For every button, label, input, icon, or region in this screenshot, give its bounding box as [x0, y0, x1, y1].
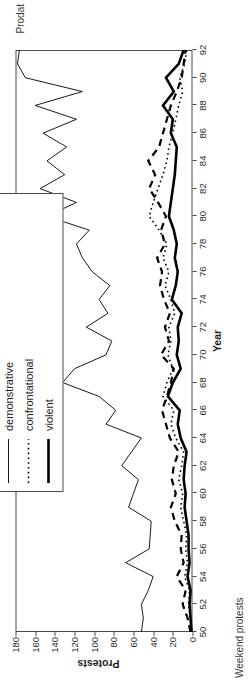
legend-swatch-thin-solid-icon [2, 439, 14, 483]
x-tick-label-68: 68 [196, 372, 207, 394]
y-tick-mark [15, 632, 16, 636]
series-line-violent [163, 50, 192, 632]
x-tick-mark [192, 382, 196, 383]
y-tick-mark [113, 632, 114, 636]
caption-prodat: Prodat [14, 4, 25, 33]
chart-figure: 5052545658606264666870727476788082848688… [0, 0, 251, 680]
y-tick-mark [192, 632, 193, 636]
legend-item-violent[interactable]: violent [40, 202, 55, 483]
x-tick-label-78: 78 [196, 233, 207, 255]
x-tick-label-60: 60 [196, 482, 207, 504]
chart-page: 5052545658606264666870727476788082848688… [0, 0, 251, 680]
x-tick-label-70: 70 [196, 344, 207, 366]
rotated-figure-wrapper: 5052545658606264666870727476788082848688… [0, 0, 251, 680]
y-tick-mark [133, 632, 134, 636]
x-tick-label-82: 82 [196, 178, 207, 200]
chart-legend: conventionaldemonstrativeconfrontational… [0, 193, 63, 492]
legend-swatch-thick-solid-icon [42, 439, 54, 483]
x-axis-label: Year [210, 50, 222, 632]
x-tick-label-84: 84 [196, 150, 207, 172]
x-tick-label-76: 76 [196, 261, 207, 283]
caption-weekend-protests: Weekend protests [233, 598, 244, 678]
y-tick-label-0: 0 [186, 637, 197, 663]
x-tick-mark [192, 354, 196, 355]
x-tick-mark [192, 492, 196, 493]
y-tick-label-180: 180 [9, 637, 20, 663]
legend-label: confrontational [22, 359, 34, 431]
y-tick-mark [94, 632, 95, 636]
x-tick-label-86: 86 [196, 122, 207, 144]
x-tick-mark [192, 326, 196, 327]
x-tick-mark [192, 243, 196, 244]
x-tick-label-58: 58 [196, 510, 207, 532]
x-tick-label-66: 66 [196, 399, 207, 421]
y-tick-label-20: 20 [166, 637, 177, 663]
x-tick-mark [192, 104, 196, 105]
legend-item-confrontational[interactable]: confrontational [20, 202, 35, 483]
x-tick-mark [192, 188, 196, 189]
x-tick-mark [192, 603, 196, 604]
x-tick-mark [192, 437, 196, 438]
x-tick-mark [192, 520, 196, 521]
x-tick-label-54: 54 [196, 566, 207, 588]
y-tick-mark [35, 632, 36, 636]
x-tick-mark [192, 548, 196, 549]
x-tick-mark [192, 77, 196, 78]
x-tick-label-52: 52 [196, 593, 207, 615]
y-tick-mark [172, 632, 173, 636]
x-tick-mark [192, 271, 196, 272]
legend-label: demonstrative [2, 362, 14, 431]
x-tick-mark [192, 576, 196, 577]
x-tick-mark [192, 49, 196, 50]
x-tick-mark [192, 215, 196, 216]
x-tick-mark [192, 160, 196, 161]
y-tick-mark [54, 632, 55, 636]
series-line-conventional [148, 50, 190, 632]
y-tick-mark [74, 632, 75, 636]
x-tick-label-72: 72 [196, 316, 207, 338]
x-tick-mark [192, 132, 196, 133]
legend-swatch-dotted-icon [22, 439, 34, 483]
x-tick-mark [192, 465, 196, 466]
y-axis-label: Protests [38, 658, 158, 670]
x-tick-label-90: 90 [196, 67, 207, 89]
x-tick-label-80: 80 [196, 205, 207, 227]
legend-item-demonstrative[interactable]: demonstrative [0, 202, 15, 483]
x-tick-mark [192, 409, 196, 410]
x-tick-label-88: 88 [196, 94, 207, 116]
x-tick-label-74: 74 [196, 288, 207, 310]
x-tick-label-62: 62 [196, 455, 207, 477]
x-tick-label-50: 50 [196, 621, 207, 643]
x-tick-label-92: 92 [196, 39, 207, 61]
x-tick-label-64: 64 [196, 427, 207, 449]
y-tick-mark [153, 632, 154, 636]
x-tick-mark [192, 298, 196, 299]
legend-label: violent [42, 399, 54, 431]
x-tick-label-56: 56 [196, 538, 207, 560]
